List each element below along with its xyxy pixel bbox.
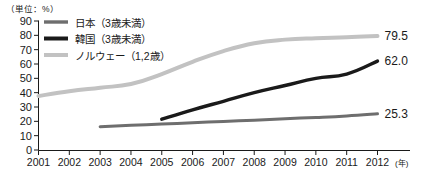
x-tick-label: 2010: [304, 156, 328, 168]
y-tick-label: 90: [20, 15, 32, 27]
y-tick-label: 40: [20, 87, 32, 99]
legend-label-2: ノルウェー（1,2歳）: [75, 50, 170, 62]
legend-label-1: 韓国（3歳未満）: [75, 33, 151, 45]
y-tick-label: 80: [20, 29, 32, 41]
y-tick-label: 0: [26, 144, 32, 156]
legend-label-0: 日本（3歳未満）: [75, 17, 151, 29]
y-tick-label: 20: [20, 115, 32, 127]
x-tick-label: 2011: [335, 156, 358, 168]
x-axis-unit-label: (年): [395, 158, 409, 168]
end-value-norway: 79.5: [385, 29, 409, 43]
x-tick-label: 2004: [119, 156, 143, 168]
y-tick-label: 50: [20, 72, 32, 84]
y-tick-label: 10: [20, 130, 32, 142]
x-tick-label: 2008: [243, 156, 267, 168]
x-tick-label: 2007: [212, 156, 236, 168]
x-tick-label: 2005: [150, 156, 174, 168]
x-tick-label: 2009: [273, 156, 297, 168]
x-tick-label: 2001: [27, 156, 51, 168]
y-tick-label: 60: [20, 58, 32, 70]
x-tick-label: 2003: [88, 156, 112, 168]
end-value-japan: 25.3: [385, 107, 409, 121]
line-chart: （単位：%） 0102030405060708090 2001200220032…: [0, 0, 423, 177]
x-tick-label: 2002: [58, 156, 82, 168]
chart-legend: 日本（3歳未満）韓国（3歳未満）ノルウェー（1,2歳）: [44, 17, 170, 62]
end-value-korea: 62.0: [385, 54, 409, 68]
x-tick-label: 2012: [366, 156, 390, 168]
y-tick-label: 30: [20, 101, 32, 113]
y-tick-label: 70: [20, 44, 32, 56]
x-tick-label: 2006: [181, 156, 205, 168]
unit-label: （単位：%）: [6, 4, 59, 14]
chart-container: （単位：%） 0102030405060708090 2001200220032…: [0, 0, 423, 177]
